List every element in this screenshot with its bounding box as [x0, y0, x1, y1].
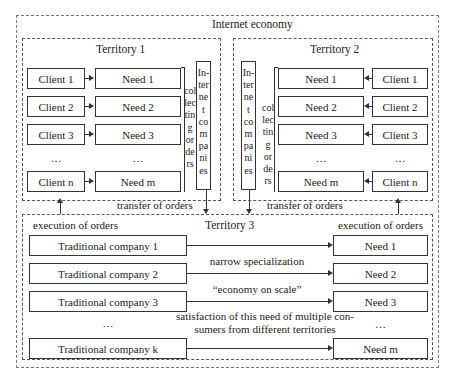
- t2-need-1: Need 1: [278, 68, 364, 89]
- t2-client-3: Client 3: [372, 124, 428, 145]
- territory-2-title: Territory 2: [310, 43, 359, 55]
- t2-client-ellipsis: …: [372, 152, 428, 164]
- t1-ic-part: In-: [196, 67, 211, 79]
- arrow-up-icon: [395, 198, 401, 203]
- t1-collecting-part: lec: [184, 97, 196, 109]
- transfer-orders-right-label: transfer of orders: [267, 199, 343, 211]
- t1-ic-part: m: [196, 128, 211, 140]
- t1-ic-part: es: [196, 165, 211, 177]
- t2-collecting-part: de: [262, 163, 274, 175]
- t1-need-ellipsis: …: [95, 152, 181, 164]
- caption-satisfaction-line-1: satisfaction of this need of multiple co…: [170, 310, 360, 323]
- t3-need-m: Need m: [333, 338, 428, 359]
- t1-client-1: Client 1: [27, 68, 85, 89]
- arrow-right-icon: [89, 178, 94, 184]
- t2-ic-part: co: [241, 116, 256, 128]
- t2-collecting-part: or: [262, 151, 274, 163]
- t2-ic-part: In-: [241, 67, 256, 79]
- t1-collecting-part: de: [184, 146, 196, 158]
- territory-3-title: Territory 3: [205, 219, 254, 231]
- caption-narrow-specialization: narrow specialization: [187, 255, 327, 268]
- t2-need-2: Need 2: [278, 96, 364, 117]
- t2-client-n: Client n: [372, 171, 428, 192]
- t1-ic-part: pa: [196, 140, 211, 152]
- t1-client-n: Client n: [27, 171, 85, 192]
- arrow-right-icon: [89, 75, 94, 81]
- t1-ic-part: co: [196, 116, 211, 128]
- t1-need-1: Need 1: [95, 68, 181, 89]
- t1-client-2: Client 2: [27, 96, 85, 117]
- t1-ic-part: ne: [196, 91, 211, 103]
- t2-ic-part: ni: [241, 152, 256, 164]
- t2-need-m: Need m: [278, 171, 364, 192]
- company-2-arrow-line: [187, 273, 329, 274]
- t2-ic-part: ne: [241, 91, 256, 103]
- t2-ic-part: pa: [241, 140, 256, 152]
- execution-orders-right-label: execution of orders: [338, 219, 423, 231]
- t1-ic-part: ter: [196, 79, 211, 91]
- t2-collecting-part: rs: [262, 175, 274, 187]
- company-3-arrow-line: [187, 301, 329, 302]
- t2-ic-part: m: [241, 128, 256, 140]
- t2-ic-part: t: [241, 104, 256, 116]
- t1-collecting-part: rs: [184, 158, 196, 170]
- t2-need-3: Need 3: [278, 124, 364, 145]
- t2-collecting-part: g: [262, 139, 274, 151]
- traditional-company-k: Traditional company k: [29, 338, 187, 359]
- t1-collecting-part: col: [184, 85, 196, 97]
- traditional-company-ellipsis: …: [29, 317, 187, 329]
- t1-collecting-part: tin: [184, 109, 196, 121]
- t2-internet-companies-label: In- ter ne t co m pa ni es: [241, 67, 256, 177]
- arrow-right-icon: [89, 131, 94, 137]
- t2-client-1: Client 1: [372, 68, 428, 89]
- execution-orders-left-label: execution of orders: [33, 219, 118, 231]
- company-1-arrow-line: [187, 245, 329, 246]
- caption-economy-on-scale: “economy on scale”: [187, 283, 327, 296]
- t2-collecting-part: col: [262, 102, 274, 114]
- t1-collecting-orders-label: col lec tin g or de rs: [184, 85, 196, 170]
- t3-need-3: Need 3: [333, 291, 428, 312]
- t1-collecting-part: g: [184, 122, 196, 134]
- t1-need-3: Need 3: [95, 124, 181, 145]
- t1-ic-part: ni: [196, 152, 211, 164]
- traditional-company-3: Traditional company 3: [29, 291, 187, 312]
- territory-1-title: Territory 1: [96, 43, 145, 55]
- t2-ic-part: ter: [241, 79, 256, 91]
- t1-ic-part: t: [196, 104, 211, 116]
- t3-need-ellipsis: …: [333, 318, 428, 330]
- t3-need-2: Need 2: [333, 263, 428, 284]
- t2-collecting-part: lec: [262, 114, 274, 126]
- t2-collecting-orders-label: col lec tin g or de rs: [262, 102, 274, 187]
- t1-need-m: Need m: [95, 171, 181, 192]
- caption-satisfaction-line-2: sumers from different territories: [170, 323, 360, 336]
- t1-client-ellipsis: …: [27, 152, 85, 164]
- t1-internet-companies-label: In- ter ne t co m pa ni es: [196, 67, 211, 177]
- traditional-company-1: Traditional company 1: [29, 235, 187, 256]
- traditional-company-2: Traditional company 2: [29, 263, 187, 284]
- t2-client-2: Client 2: [372, 96, 428, 117]
- transfer-orders-left-label: transfer of orders: [117, 199, 193, 211]
- t2-ic-part: es: [241, 165, 256, 177]
- t2-collecting-part: tin: [262, 126, 274, 138]
- internet-economy-title: Internet economy: [212, 18, 293, 30]
- arrow-up-icon: [57, 198, 63, 203]
- arrow-right-icon: [89, 103, 94, 109]
- t1-collecting-part: or: [184, 134, 196, 146]
- t1-need-2: Need 2: [95, 96, 181, 117]
- company-k-arrow-line: [187, 348, 329, 349]
- caption-satisfaction: satisfaction of this need of multiple co…: [170, 310, 360, 336]
- t1-client-3: Client 3: [27, 124, 85, 145]
- t2-need-ellipsis: …: [278, 152, 364, 164]
- t3-need-1: Need 1: [333, 235, 428, 256]
